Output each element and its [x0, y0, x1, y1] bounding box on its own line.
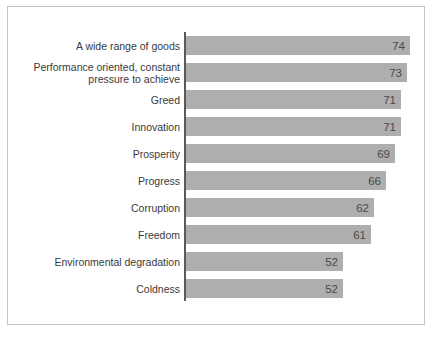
- category-label: Freedom: [0, 221, 180, 248]
- category-label: Innovation: [0, 113, 180, 140]
- bar-value-label: 52: [325, 279, 338, 298]
- bar-container: 69: [186, 144, 395, 163]
- bar-value-label: 66: [368, 171, 381, 190]
- bar[interactable]: [186, 144, 395, 163]
- bar[interactable]: [186, 198, 374, 217]
- bar-value-label: 69: [377, 144, 390, 163]
- bar-container: 52: [186, 252, 343, 271]
- bar-row: Innovation 71: [8, 113, 426, 140]
- bar-container: 71: [186, 117, 401, 136]
- bar-row: Environmental degradation 52: [8, 248, 426, 275]
- bar[interactable]: [186, 36, 410, 55]
- bar-row: Coldness 52: [8, 275, 426, 302]
- bar-row: Progress 66: [8, 167, 426, 194]
- bar[interactable]: [186, 225, 371, 244]
- bar-row: Greed 71: [8, 86, 426, 113]
- chart-page: A wide range of goods 74 Performance ori…: [0, 0, 438, 337]
- bar-value-label: 74: [392, 36, 405, 55]
- category-label: Corruption: [0, 194, 180, 221]
- bar-row: Corruption 62: [8, 194, 426, 221]
- bar[interactable]: [186, 117, 401, 136]
- category-label: Greed: [0, 86, 180, 113]
- bar-value-label: 61: [353, 225, 366, 244]
- bar-container: 71: [186, 90, 401, 109]
- bar-value-label: 73: [389, 63, 402, 82]
- bar-container: 73: [186, 63, 407, 82]
- bar-row: A wide range of goods 74: [8, 32, 426, 59]
- category-label: Prosperity: [0, 140, 180, 167]
- bar[interactable]: [186, 63, 407, 82]
- category-label: Environmental degradation: [0, 248, 180, 275]
- bar-value-label: 62: [356, 198, 369, 217]
- bar[interactable]: [186, 171, 386, 190]
- category-label: A wide range of goods: [0, 32, 180, 59]
- plot-area: A wide range of goods 74 Performance ori…: [8, 7, 426, 326]
- bar-value-label: 71: [383, 117, 396, 136]
- bar[interactable]: [186, 252, 343, 271]
- bar-container: 74: [186, 36, 410, 55]
- chart-frame: A wide range of goods 74 Performance ori…: [7, 6, 425, 325]
- bar-container: 52: [186, 279, 343, 298]
- category-label: Performance oriented, constant pressure …: [0, 59, 180, 86]
- bar-value-label: 71: [383, 90, 396, 109]
- bar[interactable]: [186, 90, 401, 109]
- bar-container: 66: [186, 171, 386, 190]
- bar-value-label: 52: [325, 252, 338, 271]
- bar[interactable]: [186, 279, 343, 298]
- category-label: Progress: [0, 167, 180, 194]
- bar-container: 62: [186, 198, 374, 217]
- bar-row: Prosperity 69: [8, 140, 426, 167]
- bar-container: 61: [186, 225, 371, 244]
- category-label: Coldness: [0, 275, 180, 302]
- bar-row: Freedom 61: [8, 221, 426, 248]
- bar-row: Performance oriented, constant pressure …: [8, 59, 426, 86]
